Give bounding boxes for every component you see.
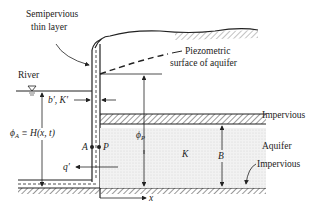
- label-semipervious: Semipervious: [26, 9, 79, 19]
- label-b: B: [218, 151, 224, 161]
- label-impervious-bottom: Impervious: [257, 159, 301, 169]
- label-q: q′: [63, 162, 71, 172]
- river-bed: [18, 180, 96, 184]
- point-a: [90, 145, 94, 149]
- piezo-leader: [172, 51, 182, 53]
- label-bk: b′, K′: [48, 95, 69, 105]
- impervious-bottom-layer: [18, 188, 266, 194]
- semipervious-leader: [56, 44, 89, 65]
- impervious-top-layer: [100, 114, 266, 124]
- label-impervious-top: Impervious: [262, 110, 306, 120]
- ground-surface: [95, 29, 258, 48]
- label-surface-of-aquifer: surface of aquifer: [170, 58, 238, 68]
- water-level-icon: [28, 86, 36, 91]
- river-water-level: [16, 86, 92, 95]
- piezometric-surface: [100, 54, 168, 74]
- label-x: x: [148, 193, 154, 203]
- label-aquifer: Aquifer: [262, 141, 292, 151]
- diagram-canvas: Semipervious thin layer Piezometric surf…: [0, 0, 322, 220]
- label-piezometric: Piezometric: [185, 46, 230, 56]
- label-phi-a: ϕA ≡ H(x, t): [10, 128, 55, 139]
- label-k: K: [181, 149, 189, 159]
- label-point-a: A: [81, 142, 88, 152]
- label-thin-layer: thin layer: [31, 22, 68, 32]
- label-river: River: [18, 70, 40, 80]
- semipervious-layer: [92, 40, 100, 198]
- point-p: [97, 145, 101, 149]
- label-point-p: P: [102, 142, 109, 152]
